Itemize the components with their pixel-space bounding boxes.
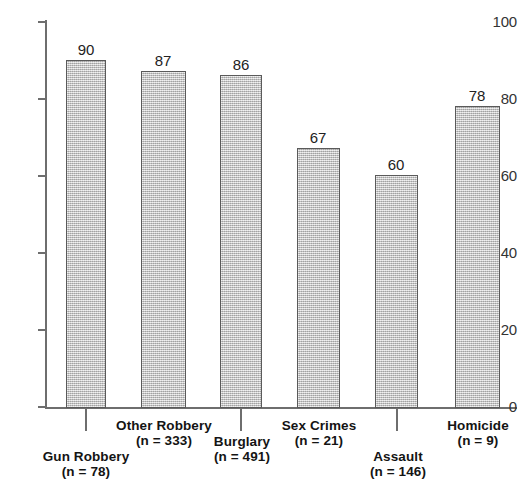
category-name-sex-crimes: Sex Crimes (282, 418, 357, 433)
category-n-sex-crimes: (n = 21) (249, 433, 389, 448)
x-axis-line (45, 407, 517, 409)
bar-value-other-robbery: 87 (138, 53, 188, 68)
category-n-burglary: (n = 491) (172, 449, 312, 464)
category-label-gun-robbery: Gun Robbery (n = 78) (16, 449, 156, 479)
y-tick-40 (38, 252, 46, 254)
bar-value-assault: 60 (371, 157, 421, 172)
bar-burglary (220, 75, 262, 408)
bar-homicide (455, 106, 500, 408)
y-tick-0 (38, 406, 46, 408)
category-label-homicide: Homicide (n = 9) (408, 418, 522, 448)
bar-value-homicide: 78 (452, 88, 502, 103)
category-n-assault: (n = 146) (328, 464, 468, 479)
category-n-homicide: (n = 9) (408, 433, 522, 448)
category-name-other-robbery: Other Robbery (116, 418, 212, 433)
category-name-assault: Assault (373, 449, 422, 464)
x-tick-assault (396, 409, 398, 431)
category-label-sex-crimes: Sex Crimes (n = 21) (249, 418, 389, 448)
x-tick-burglary (240, 409, 242, 431)
y-tick-80 (38, 98, 46, 100)
y-tick-20 (38, 329, 46, 331)
bar-gun-robbery (66, 60, 106, 408)
bar-value-gun-robbery: 90 (61, 42, 111, 57)
bar-sex-crimes (297, 148, 340, 408)
category-n-other-robbery: (n = 333) (94, 433, 234, 448)
category-name-gun-robbery: Gun Robbery (43, 449, 130, 464)
bar-assault (375, 175, 418, 408)
category-name-homicide: Homicide (447, 418, 509, 433)
bar-value-burglary: 86 (216, 57, 266, 72)
bar-value-sex-crimes: 67 (293, 130, 343, 145)
category-n-gun-robbery: (n = 78) (16, 464, 156, 479)
bar-other-robbery (141, 71, 186, 408)
category-label-assault: Assault (n = 146) (328, 449, 468, 479)
category-label-other-robbery: Other Robbery (n = 333) (94, 418, 234, 448)
y-tick-label-100: 100 (483, 14, 517, 29)
y-tick-60 (38, 175, 46, 177)
x-tick-gun-robbery (85, 409, 87, 431)
y-tick-100 (38, 21, 46, 23)
y-axis-line (45, 20, 47, 409)
